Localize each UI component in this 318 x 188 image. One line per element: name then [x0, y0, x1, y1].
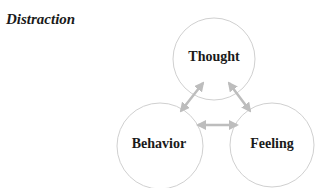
- thought-node-label: Thought: [188, 49, 240, 64]
- thought-feeling-behavior-diagram: Thought Behavior Feeling: [0, 0, 318, 188]
- behavior-node-label: Behavior: [132, 136, 186, 151]
- feeling-node-label: Feeling: [250, 136, 294, 151]
